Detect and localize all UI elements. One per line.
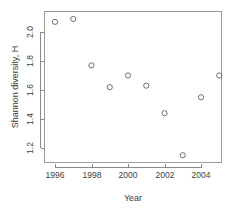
x-axis-title: Year: [124, 193, 142, 203]
y-tick-label-3: 1.4: [25, 113, 35, 125]
y-tick-label-0: 2.0: [25, 26, 35, 38]
scatter-plot-figure: 2.0 1.8 1.6 1.4 1.2 1996 1998 2000 2002 …: [0, 0, 235, 211]
y-tick-label-4: 1.2: [25, 142, 35, 154]
x-tick-label-0: 1996: [46, 170, 65, 180]
data-points-group: [52, 16, 221, 157]
data-point: [125, 73, 130, 78]
x-axis-tick-labels: 1996 1998 2000 2002 2004: [46, 170, 211, 180]
data-point: [107, 85, 112, 90]
data-point: [52, 19, 57, 24]
data-point: [144, 83, 149, 88]
x-tick-label-4: 2004: [192, 170, 211, 180]
x-axis-ticks: [56, 164, 202, 168]
data-point: [198, 95, 203, 100]
data-point: [162, 111, 167, 116]
data-point: [71, 16, 76, 21]
data-point: [180, 153, 185, 158]
y-axis-tick-labels: 2.0 1.8 1.6 1.4 1.2: [25, 26, 35, 154]
chart-canvas: 2.0 1.8 1.6 1.4 1.2 1996 1998 2000 2002 …: [0, 0, 235, 211]
y-axis-title: Shannon diversity, H: [10, 46, 20, 128]
data-point: [89, 63, 94, 68]
y-tick-label-1: 1.8: [25, 55, 35, 67]
x-tick-label-2: 2000: [119, 170, 138, 180]
plot-frame: [45, 12, 222, 163]
x-tick-label-1: 1998: [83, 170, 102, 180]
y-axis-ticks: [41, 33, 45, 149]
y-tick-label-2: 1.6: [25, 84, 35, 96]
x-tick-label-3: 2002: [156, 170, 175, 180]
